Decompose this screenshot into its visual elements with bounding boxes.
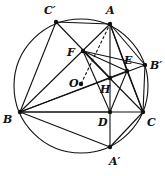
point-H: [108, 76, 112, 80]
segment-CpB: [20, 22, 56, 112]
label-C: C: [147, 116, 156, 129]
label-C-prime: C′: [44, 4, 56, 17]
label-O: O: [69, 77, 79, 90]
point-D: [108, 110, 112, 114]
segment-FBp: [83, 51, 145, 65]
point-F: [81, 49, 85, 53]
label-B: B: [2, 113, 12, 126]
segment-CAp: [110, 112, 143, 147]
segment-AB: [20, 24, 110, 112]
point-E: [125, 69, 129, 73]
segment-BAp: [20, 112, 110, 147]
point-B-prime: [143, 63, 147, 67]
point-A: [108, 22, 112, 26]
label-B-prime: B′: [149, 59, 162, 72]
label-A: A: [105, 4, 115, 17]
point-O: [79, 82, 83, 86]
segment-EC: [127, 71, 143, 112]
geometry-diagram: AC′FEB′OHBDCA′: [0, 0, 165, 176]
label-A-prime: A′: [108, 155, 121, 168]
label-F: F: [66, 46, 76, 59]
point-A-prime: [108, 145, 112, 149]
point-C-prime: [54, 20, 58, 24]
point-C: [141, 110, 145, 114]
point-B: [18, 110, 22, 114]
segment-FD: [83, 51, 110, 112]
label-D: D: [97, 116, 108, 129]
label-E: E: [123, 54, 133, 67]
label-H: H: [99, 83, 111, 96]
